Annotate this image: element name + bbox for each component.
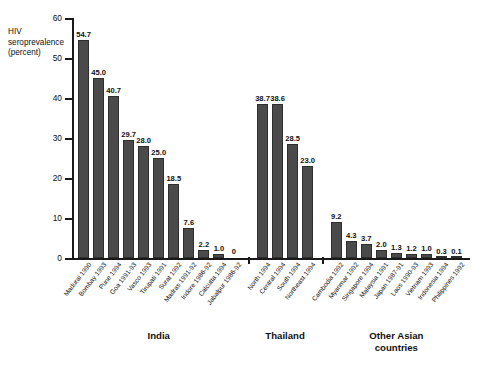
bar-value-label: 7.6: [184, 218, 195, 227]
bar-item: 3.7Singapore 1994: [361, 244, 372, 259]
y-axis-tick: 10: [65, 218, 72, 219]
bar-value-label: 38.7: [255, 94, 270, 103]
bar-value-label: 1.0: [421, 244, 432, 253]
bar: [183, 228, 194, 258]
chart-page: HIV seroprevalence (percent) 01020304050…: [0, 0, 488, 365]
bar: [346, 241, 357, 258]
bar: [257, 104, 268, 259]
bar-item: 40.7Pune 1994: [108, 96, 119, 259]
bar: [153, 158, 164, 258]
bar-value-label: 28.5: [285, 134, 300, 143]
bar-value-label: 0.3: [436, 247, 447, 256]
bar: [138, 146, 149, 258]
bar-item: 1.3Japan 1987-91: [391, 253, 402, 258]
y-axis-tick-label: 0: [57, 253, 62, 263]
bar: [272, 104, 283, 258]
bar-value-label: 1.2: [406, 244, 417, 253]
bar-item: 1.0Vietnam 1993: [421, 254, 432, 258]
bar-value-label: 1.0: [214, 244, 225, 253]
bar-value-label: 18.5: [166, 174, 181, 183]
y-axis-tick-label: 30: [53, 133, 62, 143]
bar-item: 28.5South 1994: [287, 144, 298, 258]
bar-item: 9.2Cambodia 1992: [331, 222, 342, 259]
bar-value-label: 28.0: [136, 136, 151, 145]
bar: [391, 253, 402, 258]
bar-item: 45.0Bombay 1993: [93, 78, 104, 258]
bar: [331, 222, 342, 259]
y-axis-tick: 50: [65, 58, 72, 59]
group-separator: [248, 257, 250, 264]
bar-value-label: 40.7: [106, 86, 121, 95]
y-axis-tick: 60: [65, 18, 72, 19]
bar-value-label: 3.7: [361, 234, 372, 243]
bar: [108, 96, 119, 259]
bar: [436, 256, 447, 258]
bar-item: 1.2Laos 1990-93: [406, 254, 417, 259]
bar-item: 2.2Indore 1986-92: [198, 250, 209, 259]
bar-value-label: 1.3: [391, 243, 402, 252]
bar-item: 18.5Surat 1992: [168, 184, 179, 258]
y-axis-tick: 30: [65, 138, 72, 139]
bar-item: 25.0Tirupati 1991: [153, 158, 164, 258]
bar-item: 23.0Northeast 1994: [302, 166, 313, 258]
y-axis-tick: 0: [65, 258, 72, 259]
group-title: Other Asian countries: [369, 330, 423, 353]
bar-value-label: 38.6: [270, 94, 285, 103]
bar-item: 4.3Myanmar 1992: [346, 241, 357, 258]
y-axis-line: [72, 18, 74, 260]
bar-item: 54.7Madurai 1990: [78, 40, 89, 259]
bar: [123, 140, 134, 259]
bar-value-label: 4.3: [346, 231, 357, 240]
bar-item: 0.1Philippines 1992: [451, 257, 462, 258]
bar: [451, 256, 462, 258]
bar: [361, 244, 372, 259]
y-axis-tick-label: 60: [53, 13, 62, 23]
bar-item: 38.6Central 1994: [272, 104, 283, 258]
y-axis-tick: 40: [65, 98, 72, 99]
y-axis-tick: 20: [65, 178, 72, 179]
bar: [93, 78, 104, 258]
bar-value-label: 9.2: [331, 212, 342, 221]
bar-value-label: 2.0: [376, 240, 387, 249]
bar: [168, 184, 179, 258]
bar-value-label: 45.0: [91, 68, 106, 77]
bar-value-label: 0.1: [451, 247, 462, 256]
bar: [213, 254, 224, 258]
y-axis-tick-label: 50: [53, 53, 62, 63]
y-axis-tick-label: 20: [53, 173, 62, 183]
y-axis-tick-label: 40: [53, 93, 62, 103]
bar-item: 29.7Goa 1991-93: [123, 140, 134, 259]
group-separator: [322, 257, 324, 264]
bar: [406, 254, 417, 259]
bar-value-label: 23.0: [300, 156, 315, 165]
bar: [421, 254, 432, 258]
bar: [376, 250, 387, 258]
group-title: India: [148, 330, 170, 342]
bar-value-label: 54.7: [76, 30, 91, 39]
bar-value-label: 25.0: [151, 148, 166, 157]
bar-item: 38.7North 1994: [257, 104, 268, 259]
plot-area: 0102030405060 54.7Madurai 199045.0Bombay…: [72, 18, 470, 260]
bar-item: 7.6Madras 1991-92: [183, 228, 194, 258]
bar-item: 2.0Malaysia 1991: [376, 250, 387, 258]
bar-value-label: 2.2: [199, 240, 210, 249]
bar: [78, 40, 89, 259]
bar-item: 28.0Vasco 1993: [138, 146, 149, 258]
bar-value-label: 0: [232, 247, 236, 256]
bar-value-label: 29.7: [121, 130, 136, 139]
bar-item: 0.3Indonesia 1994: [436, 257, 447, 258]
group-title: Thailand: [265, 330, 304, 342]
bar: [198, 250, 209, 259]
bar: [302, 166, 313, 258]
bar: [287, 144, 298, 258]
y-axis-tick-label: 10: [53, 213, 62, 223]
bar-item: 1.0Calcutta 1994: [213, 254, 224, 258]
bar-item: 0Jabalpur 1986-92: [228, 257, 239, 258]
